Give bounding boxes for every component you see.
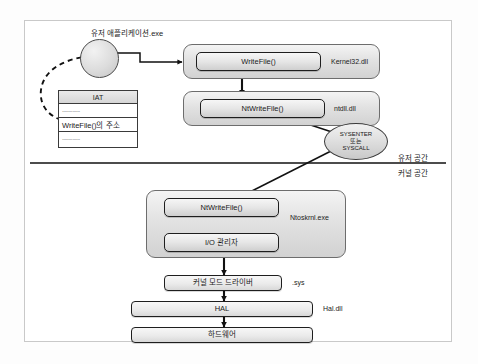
user-space-label: 유저 공간 bbox=[398, 152, 428, 163]
iat-row-dots-bottom: .............. bbox=[59, 132, 137, 146]
sysenter-line-3: SYSCALL bbox=[342, 145, 369, 152]
module-ntoskrnl: NtWriteFile() I/O 관리자 Ntoskrnl.exe bbox=[146, 190, 346, 258]
module-label-ntoskrnl: Ntoskrnl.exe bbox=[290, 214, 329, 221]
function-box-io-manager[interactable]: I/O 관리자 bbox=[164, 233, 279, 252]
sysenter-line-1: SYSENTER bbox=[340, 131, 372, 138]
iat-table-header: IAT bbox=[59, 91, 137, 104]
box-hardware[interactable]: 하드웨어 bbox=[131, 327, 313, 343]
side-label-hal-dll: Hal.dll bbox=[323, 305, 342, 312]
module-label-ntdll: ntdll.dll bbox=[334, 105, 356, 112]
function-box-ntwritefile-kernel[interactable]: NtWriteFile() bbox=[164, 198, 279, 217]
user-application-circle[interactable] bbox=[80, 39, 119, 78]
diagram-canvas: 유저 애플리케이션.exe IAT .............. WriteFi… bbox=[0, 0, 478, 364]
sysenter-line-2: 또는 bbox=[350, 138, 362, 145]
side-label-sys: .sys bbox=[292, 279, 304, 286]
function-box-ntwritefile-user[interactable]: NtWriteFile() bbox=[200, 99, 325, 118]
module-label-kernel32: Kernel32.dll bbox=[331, 58, 368, 65]
iat-table: IAT .............. WriteFile()의 주소 .....… bbox=[58, 90, 138, 148]
sysenter-syscall-ellipse[interactable]: SYSENTER 또는 SYSCALL bbox=[324, 123, 388, 160]
iat-row-dots-top: .............. bbox=[59, 104, 137, 118]
iat-row-writefile-address[interactable]: WriteFile()의 주소 bbox=[59, 118, 137, 132]
module-kernel32: WriteFile() Kernel32.dll bbox=[183, 44, 380, 79]
user-application-label: 유저 애플리케이션.exe bbox=[91, 27, 163, 38]
module-ntdll: NtWriteFile() ntdll.dll bbox=[183, 91, 380, 126]
box-kernel-mode-driver[interactable]: 커널 모드 드라이버 bbox=[164, 275, 282, 291]
function-box-writefile[interactable]: WriteFile() bbox=[196, 52, 321, 71]
kernel-space-label: 커널 공간 bbox=[398, 167, 428, 178]
box-hal[interactable]: HAL bbox=[131, 301, 313, 317]
